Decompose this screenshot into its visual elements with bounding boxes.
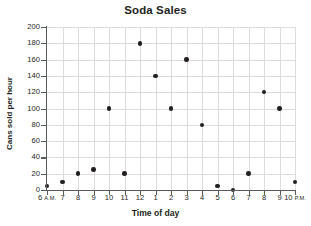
y-axis-tick [41,174,47,175]
data-point [122,171,127,176]
plot-area [47,27,295,190]
soda-sales-chart: Soda Sales Cans sold per hour 0204060801… [0,0,311,226]
y-axis-tick-labels: 020406080100120140160180200 [0,0,40,226]
y-axis-tick-label: 60 [2,137,40,145]
y-axis-tick [41,141,47,142]
x-axis-tick-label: 6 [231,194,235,202]
x-axis-tick-label: 10 [105,194,113,202]
y-axis-tick-label: 40 [2,153,40,161]
data-point [246,171,251,176]
x-axis-tick-label: 7 [246,194,250,202]
x-axis-tick-label: 10 P.M. [284,194,306,202]
gridline-vertical [218,27,219,190]
x-axis-tick-label: 2 [169,194,173,202]
x-axis-tick-label: 12 [136,194,144,202]
data-point [107,106,112,111]
y-axis-tick-label: 20 [2,170,40,178]
x-axis-tick-label: 7 [60,194,64,202]
y-axis-tick [41,27,47,28]
data-point [76,171,81,176]
x-axis-title: Time of day [0,208,311,218]
data-point [200,123,205,128]
gridline-vertical [156,27,157,190]
y-axis-tick [41,76,47,77]
y-axis-tick-label: 160 [2,56,40,64]
gridline-vertical [78,27,79,190]
data-point [153,74,158,79]
chart-title: Soda Sales [0,4,311,16]
gridline-vertical [249,27,250,190]
data-point [277,106,282,111]
y-axis-tick [41,43,47,44]
y-axis-tick [41,92,47,93]
data-point [60,180,65,185]
x-axis-tick-label: 9 [91,194,95,202]
data-point [215,184,220,189]
y-axis-tick [41,60,47,61]
gridline-vertical [295,27,296,190]
y-axis-tick-label: 80 [2,121,40,129]
y-axis-tick-label: 200 [2,23,40,31]
data-point [91,167,96,172]
x-axis-tick-label: 5 [215,194,219,202]
x-axis-tick-label: 8 [76,194,80,202]
gridline-vertical [125,27,126,190]
x-axis-tick-label: 3 [184,194,188,202]
x-axis-tick-label: 9 [277,194,281,202]
y-axis-tick-label: 120 [2,88,40,96]
gridline-vertical [140,27,141,190]
y-axis-tick-label: 140 [2,72,40,80]
data-point [138,41,143,46]
gridline-vertical [202,27,203,190]
y-axis-tick [41,125,47,126]
y-axis-tick [41,157,47,158]
y-axis-tick-label: 0 [2,186,40,194]
data-point [169,106,174,111]
gridline-vertical [187,27,188,190]
x-axis-tick-label: 1 [153,194,157,202]
data-point [184,57,189,62]
gridline-vertical [233,27,234,190]
gridline-vertical [63,27,64,190]
data-point [293,180,298,185]
x-axis-tick-label: 11 [121,194,129,202]
gridline-vertical [94,27,95,190]
x-axis-tick-label: 8 [262,194,266,202]
y-axis-tick-label: 180 [2,39,40,47]
data-point [262,90,267,95]
y-axis-tick [41,109,47,110]
x-axis-tick-label: 4 [200,194,204,202]
gridline-vertical [264,27,265,190]
y-axis-tick-label: 100 [2,105,40,113]
x-axis-tick-label: 6 A.M. [38,194,56,202]
